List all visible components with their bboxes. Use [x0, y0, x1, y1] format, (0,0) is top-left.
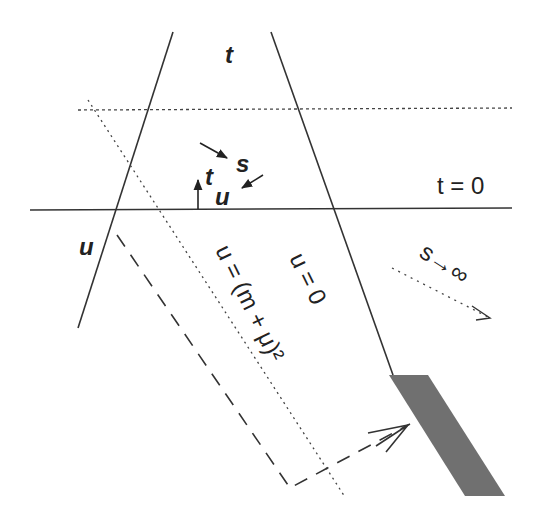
dashed-path-arrowhead-icon — [368, 425, 408, 452]
label-u-inner: u — [215, 183, 230, 210]
s-arrow-left — [200, 143, 227, 158]
mandelstam-diagram: t u s t u t = 0 u = 0 u = (m + μ)² s→∞ — [0, 0, 538, 519]
dashed-path — [117, 235, 410, 488]
t-axis-line — [78, 32, 173, 328]
label-t-zero: t = 0 — [437, 172, 484, 199]
label-u-zero: u = 0 — [285, 248, 333, 308]
label-s-inner: s — [236, 150, 249, 177]
t-zero-line — [30, 208, 512, 210]
label-t-inner: t — [205, 163, 214, 190]
label-u-axis: u — [79, 233, 94, 260]
label-t-axis: t — [225, 41, 234, 68]
upper-dotted-line — [78, 108, 512, 110]
u-zero-line — [271, 32, 393, 375]
label-s-infinity: s→∞ — [415, 238, 474, 290]
shaded-region — [389, 375, 505, 496]
label-u-threshold: u = (m + μ)² — [211, 240, 290, 365]
